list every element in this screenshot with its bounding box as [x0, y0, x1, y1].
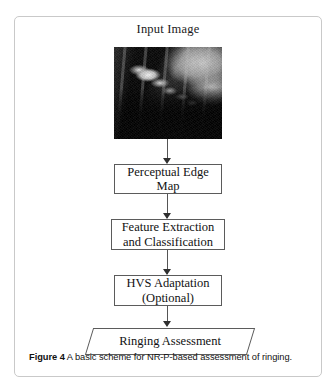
node-label-line-1: Feature Extraction	[122, 220, 215, 234]
figure-caption: Figure 4 A basic scheme for NR-P-based a…	[15, 351, 321, 363]
photo-grain-layer	[114, 47, 222, 139]
flowchart-diagram: Input Image Perceptual Edge Map Featur	[15, 17, 321, 347]
node-label-line-2: (Optional)	[142, 291, 194, 305]
node-label-line-1: HVS Adaptation	[127, 276, 210, 290]
flowchart-title: Input Image	[15, 22, 321, 37]
node-label-line-2: and Classification	[123, 235, 213, 249]
node-perceptual-edge-map: Perceptual Edge Map	[114, 164, 222, 194]
input-image-photo	[114, 47, 222, 139]
node-hvs-adaptation-label: HVS Adaptation (Optional)	[123, 276, 214, 305]
figure-card: Input Image Perceptual Edge Map Featur	[14, 16, 322, 377]
arrowhead-4	[163, 321, 171, 327]
node-label-line-2: Map	[157, 179, 180, 193]
node-feature-extraction-label: Feature Extraction and Classification	[118, 220, 219, 249]
node-perceptual-edge-map-label: Perceptual Edge Map	[123, 165, 213, 194]
figure-caption-label: Figure 4	[29, 352, 65, 362]
node-label-line-1: Perceptual Edge	[127, 165, 209, 179]
figure-caption-text: A basic scheme for NR-P-based assessment…	[67, 352, 292, 362]
node-feature-extraction-and-classification: Feature Extraction and Classification	[111, 219, 225, 250]
node-hvs-adaptation: HVS Adaptation (Optional)	[114, 275, 222, 306]
